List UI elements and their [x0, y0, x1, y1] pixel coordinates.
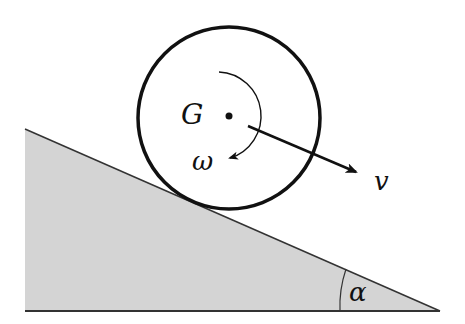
center-point [226, 113, 233, 120]
velocity-arrow [248, 126, 356, 172]
center-label: G [181, 98, 203, 131]
velocity-label: v [374, 166, 389, 196]
diagram-canvas: α G ω v [0, 0, 465, 324]
angular-velocity-arrow [219, 72, 261, 158]
angular-velocity-label: ω [192, 146, 213, 176]
angle-label: α [349, 277, 367, 307]
